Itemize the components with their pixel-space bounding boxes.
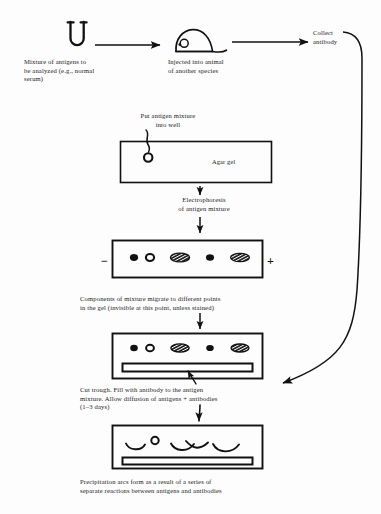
band-hollow (146, 345, 154, 352)
components-migrate-caption: Components of mixture migrate to differe… (80, 295, 318, 312)
curved-arrow-icon (283, 32, 362, 383)
band-filled-small (206, 345, 214, 351)
agar-gel-with-well (121, 130, 272, 183)
gel-with-precipitation-arcs (113, 426, 263, 469)
negative-electrode-label: − (101, 255, 108, 267)
antibody-trough (123, 458, 253, 465)
band-striped-oval (171, 344, 189, 352)
trough-pointer-icon (188, 371, 196, 384)
electrophoresis-caption: Electrophoresis of antigen mixture (145, 196, 263, 213)
band-striped-oval (170, 253, 189, 262)
test-tube-icon (68, 22, 87, 45)
band-hollow (146, 254, 154, 261)
mixture-caption: Mixture of antigens to be analyzed (e.g.… (24, 58, 154, 84)
band-striped-oval (231, 253, 250, 261)
precipitation-arcs-caption: Precipitation arcs form as a result of a… (80, 478, 318, 495)
agar-gel-label: Agar gel (212, 158, 262, 167)
injected-caption: Injected into animal of another species (168, 58, 288, 75)
precipitation-arc (186, 441, 208, 448)
band-striped-oval (231, 344, 249, 352)
precipitation-arc (126, 444, 145, 450)
band-filled-small (206, 254, 214, 261)
diagram-page: Mixture of antigens to be analyzed (e.g.… (0, 0, 381, 514)
collect-antibody-caption: Collect antibody (313, 29, 373, 46)
gel-with-cut-trough (113, 334, 263, 379)
cut-trough-caption: Cut trough. Fill with antibody to the an… (80, 386, 310, 412)
precipitation-arc (213, 444, 239, 451)
gel-well-icon (144, 153, 152, 161)
put-antigen-mixture-caption: Put antigen mixture into well (108, 112, 228, 129)
electrophoresis-gel (113, 241, 263, 278)
mouse-icon (176, 30, 226, 53)
band-hollow (151, 437, 158, 444)
band-filled-small (130, 345, 138, 351)
band-filled-small (130, 254, 138, 261)
antibody-trough (123, 364, 253, 372)
positive-electrode-label: + (267, 255, 274, 267)
